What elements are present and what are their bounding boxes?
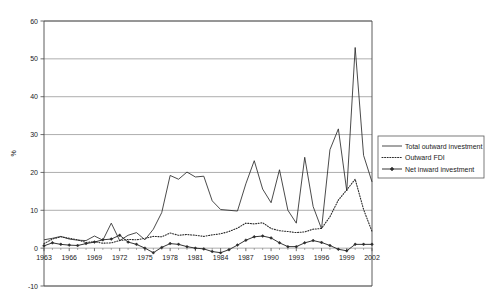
- y-axis-title: %: [10, 150, 17, 156]
- y-tick-label: 0: [34, 245, 38, 252]
- y-tick-label: 30: [30, 131, 38, 138]
- series-marker: [211, 250, 214, 253]
- legend-label-0[interactable]: Total outward investment: [405, 143, 482, 150]
- series-marker: [93, 241, 96, 244]
- x-tick-label: 1963: [36, 254, 52, 261]
- series-marker: [312, 239, 315, 242]
- series-marker: [194, 247, 197, 250]
- series-marker: [169, 242, 172, 245]
- x-tick-label: 1984: [213, 254, 229, 261]
- axes: [41, 21, 373, 286]
- chart-legend[interactable]: Total outward investmentOutward FDINet i…: [378, 136, 484, 178]
- series-marker: [76, 244, 79, 247]
- legend-label-2[interactable]: Net inward investment: [405, 166, 474, 173]
- legend-label-1[interactable]: Outward FDI: [405, 154, 445, 161]
- series-marker: [43, 244, 46, 247]
- y-tick-label: -10: [28, 283, 38, 290]
- gridlines: [44, 21, 372, 286]
- series-line-2: [44, 235, 372, 252]
- series-marker: [303, 241, 306, 244]
- y-tick-label: 40: [30, 93, 38, 100]
- series-marker: [110, 238, 113, 241]
- series-marker: [295, 245, 298, 248]
- y-tick-label: 20: [30, 169, 38, 176]
- y-tick-label: 60: [30, 18, 38, 25]
- x-tick-label: 1990: [263, 254, 279, 261]
- x-tick-label: 1993: [289, 254, 305, 261]
- series-marker: [328, 244, 331, 247]
- series-marker: [59, 243, 62, 246]
- x-tick-label: 1975: [137, 254, 153, 261]
- x-tick-label: 1969: [87, 254, 103, 261]
- y-tick-label: 50: [30, 55, 38, 62]
- x-tick-label: 1987: [238, 254, 254, 261]
- series-marker: [320, 241, 323, 244]
- x-tick-label: 1966: [61, 254, 77, 261]
- series-marker: [362, 243, 365, 246]
- data-series: [43, 48, 374, 255]
- x-tick-label: 1981: [188, 254, 204, 261]
- x-tick-label: 2002: [364, 254, 380, 261]
- series-marker: [185, 245, 188, 248]
- x-tick-label: 1999: [339, 254, 355, 261]
- series-line-0: [44, 48, 372, 241]
- series-marker: [253, 235, 256, 238]
- x-tick-label: 1972: [112, 254, 128, 261]
- line-chart: -100102030405060 19631966196919721975197…: [0, 0, 488, 301]
- series-marker: [51, 241, 54, 244]
- series-marker: [286, 245, 289, 248]
- series-marker: [68, 244, 71, 247]
- y-tick-label: 10: [30, 207, 38, 214]
- series-marker: [261, 235, 264, 238]
- chart-container: -100102030405060 19631966196919721975197…: [0, 0, 488, 301]
- series-marker: [135, 243, 138, 246]
- series-marker: [177, 243, 180, 246]
- x-axis-tick-labels: 1963196619691972197519781981198419871990…: [36, 254, 380, 261]
- series-marker: [371, 243, 374, 246]
- x-tick-label: 1978: [162, 254, 178, 261]
- y-axis-tick-labels: -100102030405060: [28, 18, 38, 290]
- x-tick-label: 1996: [314, 254, 330, 261]
- y-axis-label-text: %: [10, 150, 17, 156]
